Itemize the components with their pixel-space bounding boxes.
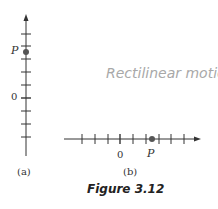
panel-b-label: (b) [123,166,137,177]
panel-a-label: (a) [17,166,31,177]
point-p-marker [149,136,155,142]
figure-canvas [0,0,218,209]
figure-caption: Figure 3.12 [87,182,164,196]
panel-b-horizontal-axis [64,134,201,144]
point-p-marker [23,49,29,55]
arrow-up-icon [24,14,29,21]
panel-b-point-label: P [147,147,154,160]
watermark-text: Rectilinear motion [106,65,218,81]
panel-a-origin-label: 0 [11,91,17,102]
panel-a-point-label: P [11,44,18,57]
panel-b-origin-label: 0 [117,149,123,160]
arrow-right-icon [194,137,201,142]
panel-a-vertical-axis [21,14,31,156]
